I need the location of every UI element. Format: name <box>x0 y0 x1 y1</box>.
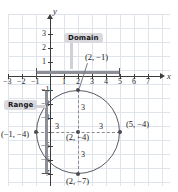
x-tick-label--3: −3 <box>3 77 12 86</box>
y-tick <box>48 34 53 35</box>
y-axis-arrow-icon <box>47 14 53 19</box>
radius-label-right: 3 <box>99 122 103 131</box>
y-tick-label-2: 2 <box>42 43 46 52</box>
graph-figure: x y −3 −2 −1 1 2 3 4 5 6 7 3 2 1 −1 −2 −… <box>0 0 178 192</box>
radius-label-up: 3 <box>81 103 85 112</box>
x-tick-label-4: 4 <box>104 77 108 86</box>
x-tick-label-5: 5 <box>118 77 122 86</box>
point-label--1--4: (−1, −4) <box>1 129 29 139</box>
domain-bar-cap-left <box>36 68 37 77</box>
x-tick-label--2: −2 <box>17 77 26 86</box>
domain-bar-cap-right <box>119 68 120 77</box>
y-tick-label-3: 3 <box>42 29 46 38</box>
domain-highlight-bar <box>36 71 120 74</box>
radius-label-left: 3 <box>55 122 59 131</box>
domain-callout-tail <box>70 43 73 69</box>
range-bar-cap-top <box>42 90 51 91</box>
point-label-5--4: (5, −4) <box>126 119 149 129</box>
y-tick <box>48 62 53 63</box>
range-callout: Range <box>4 100 37 110</box>
radius-label-down: 3 <box>81 150 85 159</box>
point-label-2--4: (2, −4) <box>66 132 89 142</box>
point-label-2--1: (2, −1) <box>85 52 108 62</box>
x-tick-label-6: 6 <box>132 77 136 86</box>
point-label-2--7: (2, −7) <box>66 176 89 186</box>
x-axis-label: x <box>167 71 171 81</box>
range-callout-tail <box>34 105 46 108</box>
range-bar-cap-bottom <box>42 173 51 174</box>
x-tick-label-3: 3 <box>90 77 94 86</box>
domain-callout: Domain <box>64 33 103 43</box>
x-tick-label-1: 1 <box>62 77 66 86</box>
x-tick-label--1: −1 <box>31 77 40 86</box>
y-tick <box>48 48 53 49</box>
y-tick-label-1: 1 <box>42 57 46 66</box>
y-axis-label: y <box>53 6 57 16</box>
x-axis-arrow-icon <box>160 73 165 79</box>
x-tick-label-7: 7 <box>146 77 150 86</box>
